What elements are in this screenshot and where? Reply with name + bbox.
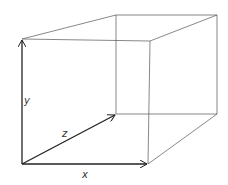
z-axis-arrow — [22, 115, 115, 164]
edge-front-right — [148, 41, 150, 164]
z-axis-label: z — [61, 128, 68, 139]
edge-top-right-depth — [150, 15, 217, 41]
y-axis-label: y — [23, 95, 31, 106]
box-diagram: y z x — [0, 0, 228, 185]
edge-bottom-right-depth — [148, 114, 217, 164]
edge-front-top — [22, 39, 150, 41]
edge-top-left-depth — [22, 15, 116, 39]
x-axis-label: x — [81, 169, 88, 180]
